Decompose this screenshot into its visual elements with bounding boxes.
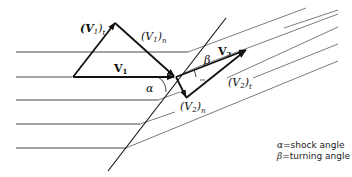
v2n-label: (V2)n [180,100,206,115]
v2t-label: (V2)t [228,76,252,91]
v1t-label: (V1)t [80,22,106,37]
beta-angle-arc [194,70,196,77]
v1-label: V1 [113,62,128,76]
legend: α=shock angle β=turning angle [277,140,350,162]
alpha-angle-arc [158,77,166,92]
legend-item-turning-angle: β=turning angle [277,151,350,162]
v2-label: V2 [217,45,232,59]
shock-wave-line [108,18,226,171]
v1n-label: (V1)n [141,30,167,45]
v2-vector [176,50,246,77]
v2n-vector [176,77,186,97]
beta-label: β [203,54,210,67]
legend-item-shock-angle: α=shock angle [277,140,350,151]
alpha-label: α [146,82,154,95]
